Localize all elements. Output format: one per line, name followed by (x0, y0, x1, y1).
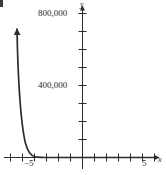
x-tick-label-5: 5 (142, 158, 147, 168)
x-tick-label-negative-5: −5 (24, 158, 34, 168)
plot-area (0, 0, 166, 175)
y-tick-label-400000: 400,000 (38, 80, 67, 90)
x-axis-name: x (158, 155, 162, 164)
y-axis-name: y (80, 0, 84, 9)
exponential-decay-curve (17, 29, 155, 158)
y-tick-label-800000: 800,000 (38, 8, 67, 18)
exponential-decay-graph-figure: 800,000 400,000 −5 5 y x (0, 0, 166, 175)
